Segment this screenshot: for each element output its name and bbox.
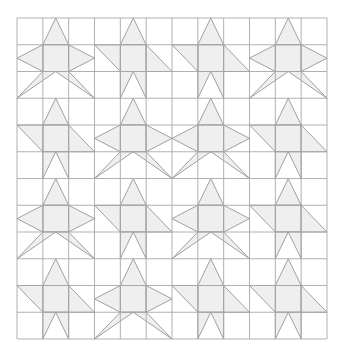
left-leg xyxy=(250,72,289,99)
top-point xyxy=(120,179,146,206)
left-diagonal-arm xyxy=(172,286,198,313)
left-leg xyxy=(95,312,134,339)
left-base xyxy=(275,312,288,339)
center-square xyxy=(120,45,146,72)
right-kite xyxy=(301,45,327,72)
top-point xyxy=(43,179,69,206)
right-base xyxy=(211,312,224,339)
left-diagonal-arm xyxy=(250,205,276,232)
left-kite xyxy=(250,45,276,72)
right-diagonal-arm xyxy=(301,286,327,313)
left-kite xyxy=(17,45,43,72)
center-square xyxy=(198,45,224,72)
right-leg xyxy=(211,232,250,259)
right-leg xyxy=(56,72,95,99)
right-base xyxy=(211,72,224,99)
right-base xyxy=(288,232,301,259)
center-square xyxy=(275,286,301,313)
right-leg xyxy=(133,152,172,179)
left-base xyxy=(120,232,133,259)
block-diag-r3-c0 xyxy=(17,259,95,339)
center-square xyxy=(120,125,146,152)
left-kite xyxy=(172,205,198,232)
right-kite xyxy=(69,205,95,232)
block-star-r1-c1 xyxy=(95,98,173,178)
top-point xyxy=(275,259,301,286)
left-base xyxy=(198,312,211,339)
right-diagonal-arm xyxy=(301,205,327,232)
block-diag-r0-c1 xyxy=(95,18,173,98)
block-star-r0-c0 xyxy=(17,18,95,98)
right-kite xyxy=(146,125,172,152)
right-diagonal-arm xyxy=(69,125,95,152)
block-diag-r3-c3 xyxy=(250,259,328,339)
left-diagonal-arm xyxy=(250,125,276,152)
block-star-r2-c2 xyxy=(172,179,250,259)
top-point xyxy=(275,98,301,125)
left-kite xyxy=(95,286,121,313)
right-diagonal-arm xyxy=(301,125,327,152)
right-leg xyxy=(211,152,250,179)
left-leg xyxy=(17,232,56,259)
center-square xyxy=(43,205,69,232)
center-square xyxy=(198,205,224,232)
top-point xyxy=(275,179,301,206)
left-diagonal-arm xyxy=(172,45,198,72)
top-point xyxy=(198,98,224,125)
left-diagonal-arm xyxy=(250,286,276,313)
block-diag-r2-c1 xyxy=(95,179,173,259)
left-base xyxy=(43,152,56,179)
block-diag-r1-c0 xyxy=(17,98,95,178)
center-square xyxy=(275,45,301,72)
right-kite xyxy=(146,286,172,313)
right-base xyxy=(133,232,146,259)
center-square xyxy=(275,205,301,232)
left-diagonal-arm xyxy=(17,286,43,313)
left-leg xyxy=(95,152,134,179)
left-leg xyxy=(172,232,211,259)
center-square xyxy=(120,286,146,313)
center-square xyxy=(43,45,69,72)
right-base xyxy=(133,72,146,99)
block-diag-r1-c3 xyxy=(250,98,328,178)
center-square xyxy=(120,205,146,232)
left-base xyxy=(198,72,211,99)
center-square xyxy=(275,125,301,152)
left-base xyxy=(275,152,288,179)
block-diag-r2-c3 xyxy=(250,179,328,259)
center-square xyxy=(198,286,224,313)
right-leg xyxy=(133,312,172,339)
right-base xyxy=(56,152,69,179)
right-kite xyxy=(224,125,250,152)
left-diagonal-arm xyxy=(95,45,121,72)
right-leg xyxy=(56,232,95,259)
left-kite xyxy=(17,205,43,232)
block-star-r2-c0 xyxy=(17,179,95,259)
top-point xyxy=(198,259,224,286)
block-star-r3-c1 xyxy=(95,259,173,339)
left-kite xyxy=(95,125,121,152)
right-diagonal-arm xyxy=(224,45,250,72)
top-point xyxy=(120,98,146,125)
right-kite xyxy=(69,45,95,72)
right-base xyxy=(56,312,69,339)
block-star-r0-c3 xyxy=(250,18,328,98)
left-diagonal-arm xyxy=(95,205,121,232)
center-square xyxy=(43,286,69,313)
left-diagonal-arm xyxy=(17,125,43,152)
center-square xyxy=(43,125,69,152)
left-base xyxy=(275,232,288,259)
top-point xyxy=(198,18,224,45)
top-point xyxy=(43,98,69,125)
top-point xyxy=(120,259,146,286)
right-diagonal-arm xyxy=(146,45,172,72)
top-point xyxy=(43,18,69,45)
center-square xyxy=(198,125,224,152)
left-kite xyxy=(172,125,198,152)
quilt-pattern-diagram xyxy=(0,0,346,360)
right-diagonal-arm xyxy=(224,286,250,313)
left-leg xyxy=(17,72,56,99)
right-kite xyxy=(224,205,250,232)
block-star-r1-c2 xyxy=(172,98,250,178)
right-diagonal-arm xyxy=(69,286,95,313)
